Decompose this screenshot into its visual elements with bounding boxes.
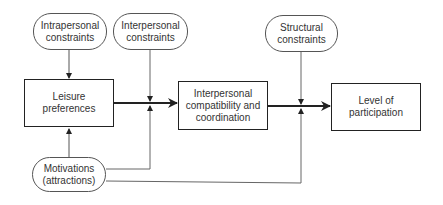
node-intrapersonal-constraints: Intrapersonal constraints	[33, 13, 107, 50]
node-motivations: Motivations (attractions)	[32, 157, 106, 192]
node-structural-constraints: Structural constraints	[265, 15, 338, 52]
node-label: Interpersonal constraints	[121, 20, 179, 44]
node-label: Motivations (attractions)	[43, 163, 96, 187]
node-label: Leisure preferences	[43, 91, 96, 115]
node-label: Intrapersonal constraints	[41, 20, 99, 44]
node-label: Structural constraints	[277, 22, 325, 46]
node-interpersonal-constraints: Interpersonal constraints	[113, 13, 188, 50]
node-label: Interpersonal compatibility and coordina…	[186, 88, 260, 124]
node-label: Level of participation	[349, 95, 403, 119]
node-interpersonal-compatibility: Interpersonal compatibility and coordina…	[178, 81, 268, 130]
node-level-of-participation: Level of participation	[331, 83, 421, 131]
node-leisure-preferences: Leisure preferences	[24, 79, 114, 127]
